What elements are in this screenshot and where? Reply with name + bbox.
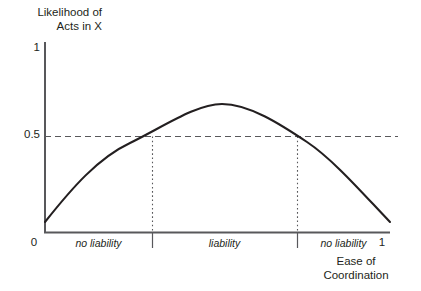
y-axis-tick-1: 1 <box>22 41 40 55</box>
x-axis-tick-0: 0 <box>26 236 42 250</box>
likelihood-curve <box>45 104 390 222</box>
x-axis-title: Ease of Coordination <box>300 255 412 282</box>
region-label-no-liability-right: no liability <box>297 237 390 249</box>
region-label-no-liability-left: no liability <box>45 237 152 249</box>
region-label-liability: liability <box>152 237 297 249</box>
y-axis-title: Likelihood of Acts in X <box>6 6 102 33</box>
likelihood-liability-chart: Likelihood of Acts in X 1 0.5 0 1 no lia… <box>0 0 421 291</box>
y-axis-tick-0-5: 0.5 <box>12 128 40 142</box>
